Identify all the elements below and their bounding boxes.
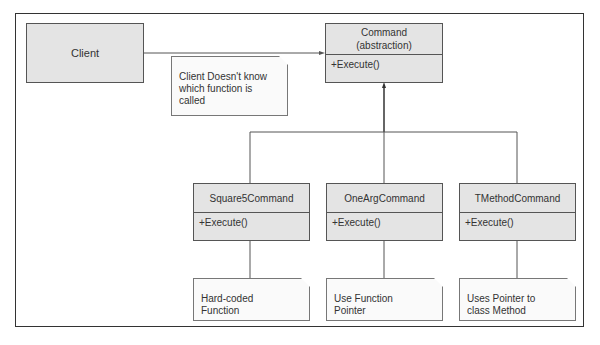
command-class-box: Command (abstraction) +Execute() — [325, 23, 443, 83]
client-label: Client — [71, 47, 99, 59]
client-box: Client — [26, 23, 144, 83]
tmethodcommand-box: TMethodCommand +Execute() — [459, 183, 576, 241]
command-subtitle: (abstraction) — [356, 39, 412, 52]
square5command-note: Hard-coded Function — [193, 278, 310, 321]
oneargcommand-box: OneArgCommand +Execute() — [326, 183, 443, 241]
square5command-box: Square5Command +Execute() — [193, 183, 310, 241]
command-title: Command — [361, 26, 407, 39]
tmethodcommand-note: Uses Pointer to class Method — [459, 278, 576, 321]
client-note: Client Doesn't know which function is ca… — [171, 56, 288, 116]
oneargcommand-note: Use Function Pointer — [326, 278, 443, 321]
command-method: +Execute() — [326, 55, 442, 74]
